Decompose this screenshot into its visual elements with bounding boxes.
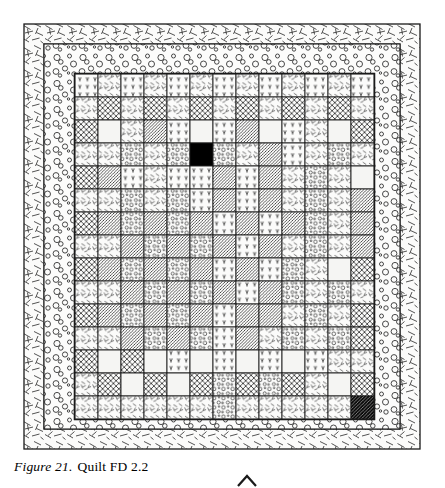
quilt-patch [190, 74, 213, 97]
quilt-patch [259, 235, 282, 258]
quilt-patch [282, 166, 305, 189]
quilt-patch [259, 327, 282, 350]
quilt-patch [98, 258, 121, 281]
quilt-patch [121, 350, 144, 373]
quilt-patch [98, 97, 121, 120]
quilt-patch [259, 373, 282, 396]
quilt-patch [328, 396, 351, 419]
quilt-patch [305, 258, 328, 281]
quilt-patch [259, 143, 282, 166]
quilt-patch [259, 281, 282, 304]
quilt-patch [75, 396, 98, 419]
quilt-patch [121, 74, 144, 97]
quilt-patch [236, 189, 259, 212]
quilt-patch [305, 396, 328, 419]
quilt-patch [351, 258, 374, 281]
figure-number: Figure 21. [14, 459, 73, 474]
quilt-patch [305, 281, 328, 304]
quilt-patch [282, 258, 305, 281]
quilt-patch [328, 350, 351, 373]
quilt-patch [305, 235, 328, 258]
quilt-patch [190, 258, 213, 281]
quilt-patch [328, 281, 351, 304]
quilt-patch [190, 350, 213, 373]
quilt-patch [121, 166, 144, 189]
quilt-patch [98, 166, 121, 189]
quilt-patch [282, 74, 305, 97]
quilt-patch [144, 304, 167, 327]
quilt-patch [282, 212, 305, 235]
quilt-patch [121, 235, 144, 258]
quilt-patch [121, 120, 144, 143]
quilt-patch [75, 143, 98, 166]
quilt-patch [98, 373, 121, 396]
quilt-patch [144, 143, 167, 166]
quilt-patch [351, 97, 374, 120]
quilt-patch [351, 74, 374, 97]
quilt-patch [259, 258, 282, 281]
quilt-patch [144, 97, 167, 120]
quilt-patch [236, 373, 259, 396]
quilt-patch [167, 350, 190, 373]
quilt-patch [98, 74, 121, 97]
quilt-patch [328, 258, 351, 281]
quilt-patch-grid [75, 74, 374, 419]
quilt-patch [305, 97, 328, 120]
quilt-patch [213, 327, 236, 350]
quilt-patch [351, 189, 374, 212]
quilt-patch [351, 304, 374, 327]
quilt-patch [236, 212, 259, 235]
quilt-patch [259, 120, 282, 143]
quilt-patch [144, 396, 167, 419]
figure-quilt-fd-2-2: Figure 21.Quilt FD 2.2 [0, 0, 445, 488]
quilt-patch [236, 304, 259, 327]
quilt-patch [167, 373, 190, 396]
quilt-patch [167, 166, 190, 189]
quilt-patch [121, 97, 144, 120]
quilt-patch [328, 189, 351, 212]
quilt-patch [351, 143, 374, 166]
quilt-patch [75, 235, 98, 258]
quilt-patch [305, 350, 328, 373]
quilt-patch [190, 97, 213, 120]
quilt-patch [236, 74, 259, 97]
quilt-patch [282, 304, 305, 327]
quilt-patch [236, 350, 259, 373]
quilt-patch [75, 189, 98, 212]
quilt-patch [213, 143, 236, 166]
quilt-patch [144, 235, 167, 258]
quilt-patch [98, 120, 121, 143]
quilt-patch [190, 235, 213, 258]
quilt-patch [144, 281, 167, 304]
quilt-patch [144, 373, 167, 396]
quilt-patch [328, 120, 351, 143]
quilt-patch [167, 120, 190, 143]
quilt-patch [259, 396, 282, 419]
quilt-patch [305, 120, 328, 143]
quilt-patch [190, 304, 213, 327]
figure-caption: Figure 21.Quilt FD 2.2 [14, 459, 149, 475]
quilt-patch [282, 281, 305, 304]
quilt-patch [167, 304, 190, 327]
quilt-patch [213, 304, 236, 327]
quilt-patch [190, 120, 213, 143]
quilt-patch [236, 235, 259, 258]
quilt-patch [305, 373, 328, 396]
quilt-patch [98, 327, 121, 350]
quilt-patch [167, 143, 190, 166]
quilt-patch [236, 327, 259, 350]
quilt-patch [144, 212, 167, 235]
quilt-patch [167, 327, 190, 350]
quilt-patch [259, 212, 282, 235]
quilt-patch [121, 212, 144, 235]
quilt-patch [190, 281, 213, 304]
quilt-patch [236, 120, 259, 143]
quilt-patch [305, 143, 328, 166]
quilt-patch [213, 258, 236, 281]
quilt-patch [351, 350, 374, 373]
quilt-patch [190, 212, 213, 235]
quilt-patch [167, 396, 190, 419]
quilt-patch [305, 74, 328, 97]
quilt-patch [121, 258, 144, 281]
quilt-patch [351, 396, 374, 419]
